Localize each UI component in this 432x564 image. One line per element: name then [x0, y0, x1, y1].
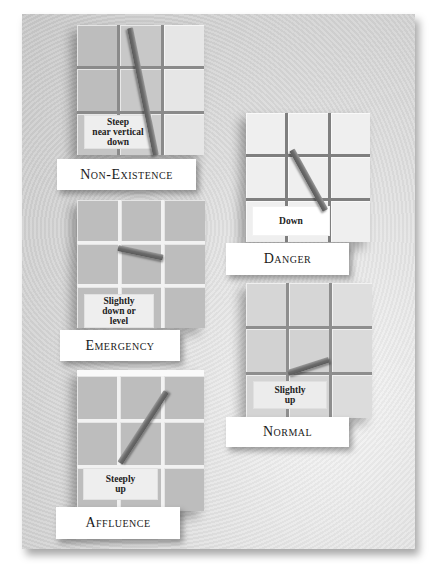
trend-description: Slightly up [253, 381, 327, 409]
condition-label: Affluence [56, 507, 180, 539]
condition-label: Non-Existence [57, 159, 196, 190]
trend-description: Down [252, 206, 330, 236]
condition-label: Normal [226, 417, 349, 447]
trend-description: Steep near vertical down [84, 115, 152, 149]
condition-label: Danger [226, 243, 349, 275]
condition-label: Emergency [60, 330, 180, 361]
trend-description: Slightly down or level [84, 294, 154, 328]
trend-description: Steeply up [83, 468, 158, 500]
